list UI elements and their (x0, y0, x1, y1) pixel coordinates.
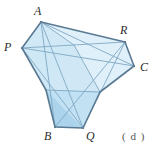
edge-Q-B (55, 127, 83, 128)
vertex-label-C: C (140, 61, 148, 73)
vertex-label-B: B (44, 130, 51, 142)
vertex-dot-C (133, 65, 135, 67)
vertex-label-P: P (4, 41, 11, 53)
geometry-figure: A P R C B Q ( d ) (0, 0, 156, 150)
vertex-dot-P (21, 47, 23, 49)
vertex-label-Q: Q (86, 130, 95, 142)
figure-canvas (0, 0, 156, 150)
face-group (22, 22, 134, 128)
vertex-dot-Q (82, 127, 84, 129)
vertex-label-R: R (120, 24, 127, 36)
vertex-label-A: A (34, 5, 41, 17)
vertex-dot-R (124, 41, 126, 43)
vertex-dot-B (54, 126, 56, 128)
vertex-dot-A (40, 21, 42, 23)
figure-caption: ( d ) (122, 131, 145, 142)
